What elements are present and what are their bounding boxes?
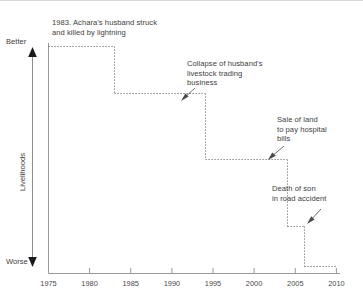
x-tick-label-1975: 1975 — [29, 279, 69, 288]
x-tick-label-2000: 2000 — [234, 279, 274, 288]
x-tick-label-2005: 2005 — [275, 279, 315, 288]
x-tick-label-2010: 2010 — [316, 279, 356, 288]
axis-group — [28, 43, 340, 274]
annotation-livestock-collapse: Collapse of husband's livestock trading … — [187, 59, 263, 88]
x-axis-ticks — [49, 268, 337, 274]
leader-livestock — [181, 88, 195, 101]
annotation-son-death: Death of son in road accident — [272, 184, 326, 203]
y-axis-worse-label: Worse — [6, 257, 28, 266]
y-axis-better-label: Better — [6, 37, 26, 46]
chart-canvas — [0, 1, 363, 300]
annotation-land-sale: Sale of land to pay hospital bills — [277, 115, 327, 144]
y-axis-title: Livelihoods — [18, 153, 27, 191]
arrow-down-icon — [28, 257, 37, 267]
x-tick-label-1990: 1990 — [152, 279, 192, 288]
leader-son — [307, 209, 321, 224]
livelihood-direction-arrow — [28, 47, 37, 267]
annotation-leaders — [181, 88, 321, 224]
leader-land — [268, 146, 284, 160]
x-tick-label-1985: 1985 — [111, 279, 151, 288]
annotation-lightning: 1983. Achara's husband struck and killed… — [52, 18, 157, 37]
livelihood-trajectory-chart: Better Worse Livelihoods 1975 1980 1985 … — [0, 0, 363, 300]
arrow-up-icon — [28, 47, 37, 57]
x-tick-label-1980: 1980 — [70, 279, 110, 288]
x-tick-label-1995: 1995 — [193, 279, 233, 288]
